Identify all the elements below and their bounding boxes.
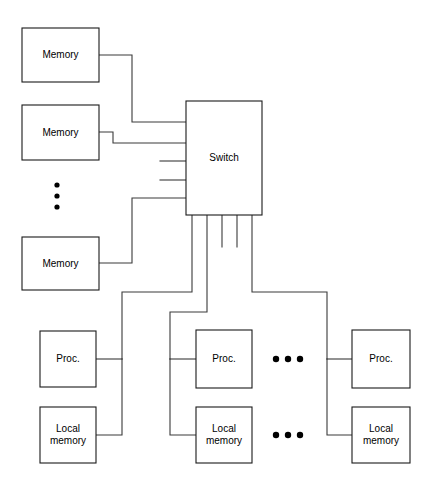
node-memory-1: Memory: [22, 28, 99, 82]
architecture-diagram: MemoryMemoryMemorySwitchProc.Localmemory…: [0, 0, 434, 492]
switch-label: Switch: [209, 152, 238, 163]
node-local-memory-1: Localmemory: [40, 407, 96, 463]
vertical-ellipsis-memory-dot-2: [54, 193, 59, 198]
diagram-canvas: MemoryMemoryMemorySwitchProc.Localmemory…: [0, 0, 434, 492]
horizontal-ellipsis-local: [273, 432, 303, 438]
wire-cluster-3-local-branch: [327, 359, 352, 435]
horizontal-ellipsis-proc-dot-3: [297, 356, 303, 362]
horizontal-ellipsis-proc-dot-1: [273, 356, 279, 362]
horizontal-ellipsis-proc-dot-2: [285, 356, 291, 362]
node-local-memory-2: Localmemory: [196, 407, 252, 463]
proc-3-label: Proc.: [369, 353, 392, 364]
memory-2-label: Memory: [42, 126, 78, 137]
horizontal-ellipsis-local-dot-2: [285, 432, 291, 438]
wire-memory-1-to-switch: [99, 55, 186, 122]
node-switch: Switch: [186, 101, 262, 215]
vertical-ellipsis-memory-dot-1: [54, 182, 59, 187]
node-proc-2: Proc.: [196, 330, 252, 388]
memory-3-label: Memory: [42, 257, 78, 268]
horizontal-ellipsis-proc: [273, 356, 303, 362]
wire-cluster-1-local-branch: [96, 359, 122, 435]
proc-2-label: Proc.: [212, 353, 235, 364]
node-memory-3: Memory: [22, 237, 99, 290]
wire-memory-3-to-switch: [99, 198, 186, 263]
node-memory-2: Memory: [22, 105, 99, 160]
node-proc-3: Proc.: [352, 330, 410, 388]
node-local-memory-3: Localmemory: [352, 407, 410, 463]
wire-cluster-2-local-branch: [170, 359, 196, 435]
node-proc-1: Proc.: [40, 331, 96, 387]
horizontal-ellipsis-local-dot-3: [297, 432, 303, 438]
proc-1-label: Proc.: [56, 353, 79, 364]
memory-1-label: Memory: [42, 49, 78, 60]
horizontal-ellipsis-local-dot-1: [273, 432, 279, 438]
wire-memory-2-to-switch: [99, 132, 186, 143]
vertical-ellipsis-memory: [54, 182, 59, 209]
wire-switch-to-cluster-3: [252, 215, 327, 359]
vertical-ellipsis-memory-dot-3: [54, 204, 59, 209]
